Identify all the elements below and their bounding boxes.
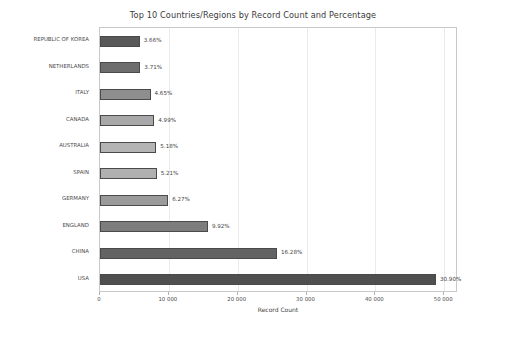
x-axis-label: Record Count (99, 306, 457, 313)
y-axis-label: NETHERLANDS (49, 64, 89, 69)
bar (100, 168, 157, 179)
x-tick-label: 20 000 (227, 297, 246, 302)
x-tick-label: 0 (97, 297, 100, 302)
bar-row: 16.28% (100, 240, 456, 267)
x-tick-mark (374, 292, 375, 295)
bar-percentage-label: 9.92% (212, 224, 230, 230)
x-tick-label: 50 000 (434, 297, 453, 302)
bar-percentage-label: 5.18% (160, 144, 178, 150)
y-axis-label: GERMANY (62, 197, 89, 202)
x-tick-mark (237, 292, 238, 295)
y-axis-label: ITALY (75, 91, 89, 96)
bar-percentage-label: 30.90% (440, 277, 461, 283)
bar (100, 36, 140, 47)
x-tick-label: 30 000 (296, 297, 315, 302)
bar-row: 4.65% (100, 81, 456, 108)
bar-row: 9.92% (100, 214, 456, 241)
bar (100, 274, 436, 285)
bar (100, 89, 151, 100)
bar-percentage-label: 3.71% (144, 65, 162, 71)
chart-title: Top 10 Countries/Regions by Record Count… (0, 10, 506, 20)
bar-row: 3.66% (100, 28, 456, 55)
y-axis-label: REPUBLIC OF KOREA (34, 38, 90, 43)
y-axis-label: CHINA (72, 250, 89, 255)
bars-layer: 3.66%3.71%4.65%4.99%5.18%5.21%6.27%9.92%… (100, 28, 456, 291)
y-axis-label: CANADA (66, 117, 89, 122)
bar-row: 5.21% (100, 161, 456, 188)
bar (100, 115, 154, 126)
bar (100, 195, 168, 206)
x-tick-mark (99, 292, 100, 295)
y-axis-label: ENGLAND (62, 223, 89, 228)
x-tick-label: 10 000 (158, 297, 177, 302)
bar-row: 30.90% (100, 267, 456, 294)
bar-percentage-label: 3.66% (144, 38, 162, 44)
bar-percentage-label: 6.27% (172, 197, 190, 203)
y-axis-label: AUSTRALIA (59, 144, 89, 149)
bar-row: 5.18% (100, 134, 456, 161)
x-tick-mark (306, 292, 307, 295)
bar-percentage-label: 4.99% (158, 118, 176, 124)
x-tick-mark (443, 292, 444, 295)
x-tick-mark (168, 292, 169, 295)
bar (100, 142, 156, 153)
bar (100, 248, 277, 259)
bar-percentage-label: 4.65% (155, 91, 173, 97)
y-axis-category-labels: REPUBLIC OF KOREANETHERLANDSITALYCANADAA… (0, 27, 95, 292)
bar (100, 221, 208, 232)
bar-percentage-label: 16.28% (281, 250, 302, 256)
bar-chart-figure: Top 10 Countries/Regions by Record Count… (0, 0, 506, 338)
y-axis-label: SPAIN (73, 170, 89, 175)
plot-area: 3.66%3.71%4.65%4.99%5.18%5.21%6.27%9.92%… (99, 27, 457, 292)
bar (100, 62, 140, 73)
x-tick-label: 40 000 (365, 297, 384, 302)
bar-row: 4.99% (100, 108, 456, 135)
bar-row: 6.27% (100, 187, 456, 214)
bar-row: 3.71% (100, 55, 456, 82)
bar-percentage-label: 5.21% (161, 171, 179, 177)
y-axis-label: USA (78, 276, 89, 281)
